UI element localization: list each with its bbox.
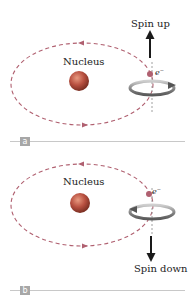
spin-label: Spin down	[134, 263, 188, 274]
panel-tag: a	[20, 137, 30, 146]
electron	[147, 71, 153, 77]
orbit-arrow-top-icon	[78, 162, 84, 167]
orbit-arrow-bottom-icon	[82, 244, 88, 249]
nucleus-label: Nucleus	[63, 176, 104, 187]
spin-up-arrow-icon	[146, 30, 155, 39]
electron-label: e⁻	[152, 187, 161, 196]
electron-label: e⁻	[155, 68, 164, 77]
nucleus-sphere	[70, 193, 90, 213]
panel-tag: b	[20, 286, 30, 295]
spin-down-arrow-icon	[147, 253, 156, 262]
orbit-arrow-bottom-icon	[82, 123, 88, 128]
nucleus-label: Nucleus	[63, 56, 104, 67]
panel-b-spin-down: Nucleus e⁻ Spin down b	[0, 150, 195, 307]
orbit-diagram-b	[0, 150, 195, 307]
panel-divider	[10, 290, 185, 291]
spin-label: Spin up	[131, 18, 170, 29]
nucleus-sphere	[69, 71, 89, 91]
panel-divider	[10, 141, 185, 142]
panel-a-spin-up: Spin up Nucleus e⁻ a	[0, 0, 195, 150]
orbit-arrow-top-icon	[78, 41, 84, 46]
